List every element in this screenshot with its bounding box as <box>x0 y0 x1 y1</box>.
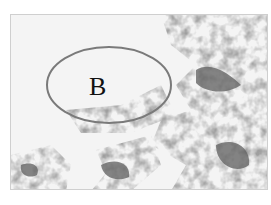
terrain-map-image <box>10 14 268 190</box>
region-b-label: B <box>89 74 106 100</box>
region-b-ellipse <box>11 15 268 190</box>
